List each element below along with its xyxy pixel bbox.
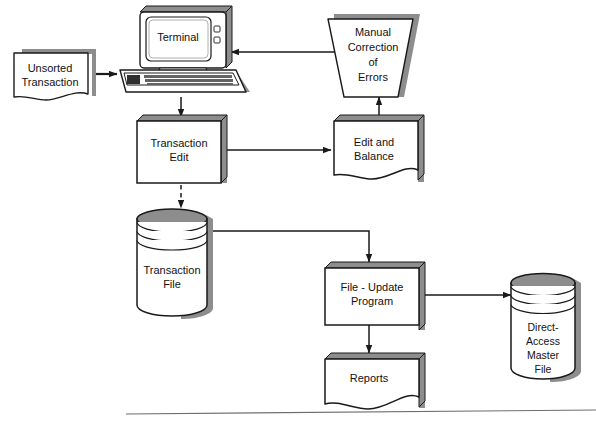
manual-correction-label-3: of [368, 56, 378, 68]
terminal-monitor-top [140, 6, 232, 12]
edit-and-balance-top [334, 115, 424, 121]
bottom-divider [126, 410, 596, 414]
transaction-edit-label-1: Transaction [150, 137, 207, 149]
terminal-screen-label: Terminal [157, 31, 199, 43]
terminal-key-rows[interactable] [144, 75, 233, 85]
reports-top [325, 353, 425, 359]
terminal-knob-top[interactable] [214, 26, 220, 32]
master-file-label-3: Master [527, 349, 560, 361]
unsorted-transaction-label-2: Transaction [21, 76, 78, 88]
node-reports[interactable]: Reports [325, 353, 425, 409]
transaction-edit-top [137, 115, 227, 121]
file-update-program-label-2: Program [351, 295, 393, 307]
master-file-label-2: Access [526, 335, 560, 347]
node-edit-and-balance[interactable]: Edit and Balance [334, 115, 424, 182]
file-update-program-side [419, 262, 425, 330]
node-transaction-file[interactable]: Transaction File [137, 209, 213, 319]
file-update-program-top [325, 262, 425, 268]
file-update-program-label-1: File - Update [341, 281, 404, 293]
connector-transaction-file-to-file-update-program [213, 231, 369, 262]
node-direct-access-master-file[interactable]: Direct- Access Master File [511, 274, 581, 383]
reports-label: Reports [350, 372, 389, 384]
transaction-file-label-2: File [163, 278, 181, 290]
node-transaction-edit[interactable]: Transaction Edit [137, 115, 227, 183]
master-file-label-4: File [535, 363, 552, 375]
terminal-monitor-side [226, 6, 232, 68]
terminal-knob-bottom[interactable] [214, 37, 220, 43]
reports-shape [325, 359, 419, 409]
transaction-edit-label-2: Edit [170, 151, 189, 163]
unsorted-transaction-label-1: Unsorted [28, 62, 73, 74]
manual-correction-label-1: Manual [355, 26, 391, 38]
edit-and-balance-side [418, 115, 424, 180]
node-file-update-program[interactable]: File - Update Program [325, 262, 425, 330]
edit-and-balance-label-2: Balance [354, 150, 394, 162]
flowchart-canvas: Unsorted Transaction Terminal [0, 0, 596, 422]
master-file-label-1: Direct- [528, 321, 559, 333]
node-unsorted-transaction[interactable]: Unsorted Transaction [14, 49, 96, 100]
manual-correction-label-2: Correction [348, 41, 399, 53]
terminal-keypad-left[interactable] [127, 75, 140, 84]
edit-and-balance-label-1: Edit and [354, 136, 394, 148]
transaction-file-label-1: Transaction [143, 264, 200, 276]
node-manual-correction[interactable]: Manual Correction of Errors [328, 14, 420, 97]
manual-correction-label-4: Errors [358, 71, 388, 83]
node-terminal[interactable]: Terminal [120, 6, 250, 92]
flowchart-svg: Unsorted Transaction Terminal [0, 0, 596, 422]
transaction-edit-side [221, 115, 227, 183]
reports-side [419, 353, 425, 407]
